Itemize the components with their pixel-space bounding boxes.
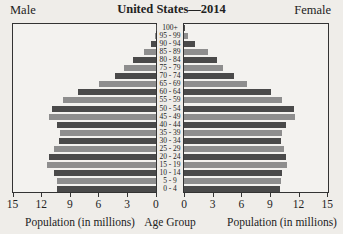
female-bar	[184, 57, 217, 63]
male-bar	[47, 162, 156, 168]
female-bar	[184, 97, 282, 103]
female-bar	[184, 81, 247, 87]
x-tick	[13, 192, 14, 197]
male-bar	[115, 73, 156, 79]
x-tick	[270, 192, 271, 197]
male-bar	[49, 154, 156, 160]
x-axis-label-female: Population (in millions)	[226, 216, 338, 228]
female-bar	[184, 49, 208, 55]
x-tick-label: 9	[260, 198, 280, 210]
female-bar	[184, 154, 286, 160]
male-bar	[60, 130, 156, 136]
x-tick-label: 9	[60, 198, 80, 210]
x-tick	[184, 192, 185, 197]
male-bar	[144, 49, 156, 55]
male-bar	[49, 114, 156, 120]
x-tick	[156, 192, 157, 197]
female-bar	[184, 162, 287, 168]
female-label: Female	[294, 3, 331, 18]
female-bar	[184, 178, 281, 184]
x-tick	[41, 192, 42, 197]
chart-title: United States—2014	[0, 2, 343, 17]
female-bar	[184, 33, 188, 39]
male-bar	[57, 122, 156, 128]
male-bar	[99, 81, 156, 87]
age-group-label: 0 - 4	[156, 185, 184, 193]
x-tick-label: 0	[174, 198, 194, 210]
female-bar	[184, 186, 280, 192]
x-tick-label: 3	[117, 198, 137, 210]
x-tick-label: 12	[31, 198, 51, 210]
female-bar	[184, 138, 281, 144]
male-bar	[54, 146, 156, 152]
male-bar	[133, 57, 156, 63]
x-tick	[127, 192, 128, 197]
female-bar	[184, 122, 286, 128]
female-bar	[184, 65, 223, 71]
male-bar	[57, 178, 156, 184]
female-bar	[184, 146, 284, 152]
x-axis-label-age-group: Age Group	[130, 216, 210, 228]
male-bar	[59, 138, 156, 144]
male-bar	[52, 106, 156, 112]
female-bar	[184, 170, 282, 176]
x-tick	[98, 192, 99, 197]
x-tick-label: 3	[203, 198, 223, 210]
male-bar	[63, 97, 156, 103]
x-tick	[70, 192, 71, 197]
x-tick-label: 6	[231, 198, 251, 210]
female-bar	[184, 114, 295, 120]
x-tick-label: 15	[317, 198, 337, 210]
x-tick-label: 12	[289, 198, 309, 210]
female-bar	[184, 41, 195, 47]
x-tick-label: 0	[146, 198, 166, 210]
x-tick	[327, 192, 328, 197]
x-tick	[299, 192, 300, 197]
male-bar	[57, 186, 156, 192]
male-bar	[54, 170, 156, 176]
female-bar	[184, 25, 185, 31]
female-bar	[184, 106, 294, 112]
female-bar	[184, 130, 282, 136]
female-bar	[184, 89, 271, 95]
x-tick	[241, 192, 242, 197]
x-tick	[213, 192, 214, 197]
male-bar	[78, 89, 156, 95]
male-bar	[124, 65, 156, 71]
female-bar	[184, 73, 234, 79]
x-tick-label: 6	[88, 198, 108, 210]
x-tick-label: 15	[3, 198, 23, 210]
